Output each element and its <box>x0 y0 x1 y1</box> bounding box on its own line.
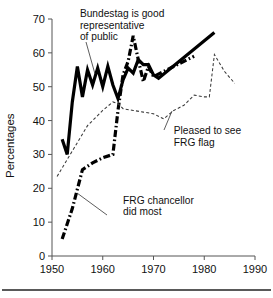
y-axis: 010203040506070 <box>33 13 52 262</box>
x-tick-label: 1950 <box>40 263 64 275</box>
annotation-line: of public <box>80 31 118 42</box>
annotation-line: did most <box>123 206 162 217</box>
annotation-line: Pleased to see <box>174 125 242 136</box>
leader-line-frg-flag <box>164 111 172 130</box>
annotation-frg-chancellor: FRG chancellordid most <box>123 195 194 218</box>
annotation-layer: Bundestag is goodrepresentativeof public… <box>80 8 242 217</box>
leader-line-frg-chancellor <box>77 193 107 215</box>
percentages-line-chart: 010203040506070 19501960197019801990 Per… <box>0 0 273 298</box>
y-tick-label: 50 <box>33 81 45 93</box>
annotation-line: Bundestag is good <box>80 8 165 19</box>
annotation-line: representative <box>80 20 145 31</box>
y-tick-label: 10 <box>33 216 45 228</box>
y-tick-label: 0 <box>39 250 45 262</box>
y-tick-label: 60 <box>33 47 45 59</box>
x-tick-label-group: 19501960197019801990 <box>40 263 267 275</box>
annotation-bundestag: Bundestag is goodrepresentativeof public <box>80 8 165 42</box>
annotation-frg-flag: Pleased to seeFRG flag <box>174 125 242 148</box>
x-tick-group <box>52 256 255 260</box>
x-tick-label: 1980 <box>192 263 216 275</box>
annotation-line: FRG flag <box>174 137 215 148</box>
chart-container: 010203040506070 19501960197019801990 Per… <box>0 0 273 298</box>
y-tick-group <box>48 19 52 256</box>
x-tick-label: 1960 <box>91 263 115 275</box>
y-axis-title: Percentages <box>4 113 16 178</box>
y-tick-label: 70 <box>33 13 45 25</box>
series-line <box>57 55 235 177</box>
y-tick-label-group: 010203040506070 <box>33 13 45 262</box>
x-tick-label: 1970 <box>141 263 165 275</box>
x-tick-label: 1990 <box>243 263 267 275</box>
annotation-line: FRG chancellor <box>123 195 194 206</box>
x-axis: 19501960197019801990 <box>40 256 267 275</box>
y-tick-label: 30 <box>33 148 45 160</box>
y-tick-label: 20 <box>33 182 45 194</box>
y-tick-label: 40 <box>33 115 45 127</box>
